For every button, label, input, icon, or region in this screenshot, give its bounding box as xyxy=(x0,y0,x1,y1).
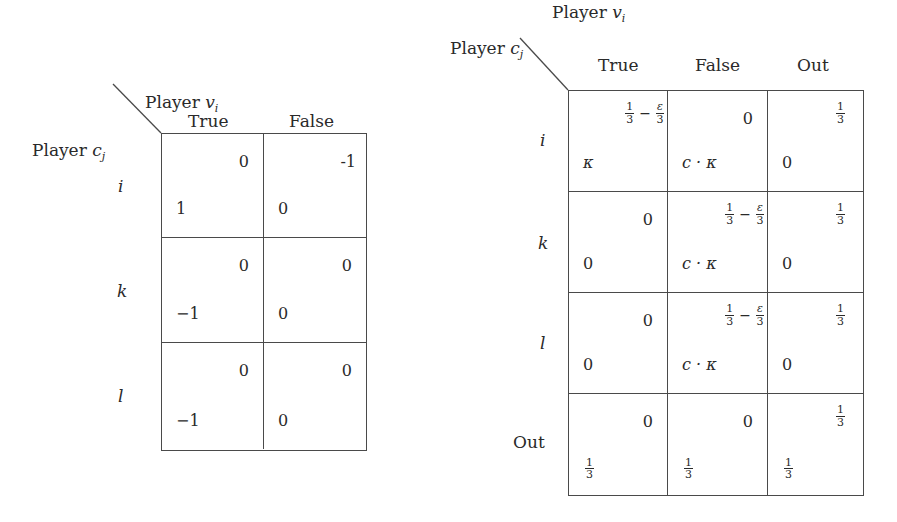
row-player-payoff: 0 xyxy=(782,155,792,171)
column-header-out: Out xyxy=(797,55,829,75)
column-player-payoff: 0 xyxy=(743,111,753,127)
column-player-payoff: 13−ε3 xyxy=(625,101,664,125)
row-player-payoff: 0 xyxy=(278,201,288,217)
row-header-l: l xyxy=(540,333,545,353)
payoff-cell: 13−ε3 c · κ xyxy=(668,192,768,293)
row-player-payoff: κ xyxy=(583,155,594,171)
payoff-cell: 13−ε3 κ xyxy=(569,91,668,192)
column-player-payoff: 0 xyxy=(743,414,753,430)
column-player-payoff: 13 xyxy=(836,202,845,226)
row-player-payoff: 0 xyxy=(583,357,593,373)
column-player-payoff: 0 xyxy=(643,212,653,228)
row-header-l: l xyxy=(118,386,123,406)
column-player-payoff: -1 xyxy=(340,154,356,170)
payoff-cell: 0 1 xyxy=(162,134,264,238)
column-header-false: False xyxy=(289,111,334,131)
row-player-payoff: c · κ xyxy=(682,256,717,272)
column-player-payoff: 13 xyxy=(836,101,845,125)
payoff-cell: 0 0 xyxy=(569,293,668,394)
payoff-cell: 0 −1 xyxy=(162,343,264,449)
payoff-cell: 0 0 xyxy=(569,192,668,293)
payoff-cell: 0 0 xyxy=(264,238,366,343)
payoff-cell: -1 0 xyxy=(264,134,366,238)
row-player-payoff: 0 xyxy=(583,256,593,272)
row-player-payoff: c · κ xyxy=(682,155,717,171)
column-player-payoff: 0 xyxy=(342,258,352,274)
row-player-payoff: c · κ xyxy=(682,357,717,373)
row-header-i: i xyxy=(118,176,123,196)
payoff-cell: 0 13 xyxy=(569,394,668,495)
row-player-payoff: 0 xyxy=(278,306,288,322)
payoff-cell: 13 13 xyxy=(768,394,863,495)
row-player-payoff: 1 xyxy=(176,201,186,217)
column-player-payoff: 13 xyxy=(836,303,845,327)
row-player-label: Player cj xyxy=(450,38,523,61)
row-player-payoff: 0 xyxy=(782,357,792,373)
row-player-payoff: 0 xyxy=(782,256,792,272)
row-player-payoff: 13 xyxy=(784,457,793,481)
row-header-out: Out xyxy=(513,432,545,452)
row-player-payoff: −1 xyxy=(176,413,200,429)
row-header-k: k xyxy=(117,281,127,301)
payoff-grid: 0 1 -1 0 0 −1 0 0 0 −1 0 0 xyxy=(161,133,367,451)
column-player-payoff: 0 xyxy=(342,363,352,379)
column-player-payoff: 13−ε3 xyxy=(725,303,764,327)
column-player-payoff: 0 xyxy=(239,154,249,170)
payoff-cell: 13 0 xyxy=(768,192,863,293)
row-header-i: i xyxy=(540,130,545,150)
column-header-true: True xyxy=(188,111,228,131)
column-player-payoff: 13 xyxy=(836,404,845,428)
row-header-k: k xyxy=(538,233,548,253)
payoff-cell: 13 0 xyxy=(768,91,863,192)
column-header-true: True xyxy=(598,55,638,75)
payoff-cell: 0 0 xyxy=(264,343,366,449)
column-header-false: False xyxy=(695,55,740,75)
column-player-payoff: 13−ε3 xyxy=(725,202,764,226)
payoff-cell: 0 13 xyxy=(668,394,768,495)
row-player-payoff: −1 xyxy=(176,306,200,322)
column-player-payoff: 0 xyxy=(643,313,653,329)
row-player-label: Player cj xyxy=(32,140,105,163)
row-player-payoff: 13 xyxy=(585,457,594,481)
column-player-label: Player vi xyxy=(552,2,625,25)
payoff-grid: 13−ε3 κ 0 c · κ 13 0 0 0 13−ε3 c · κ xyxy=(568,90,864,496)
column-player-payoff: 0 xyxy=(239,363,249,379)
payoff-cell: 13 0 xyxy=(768,293,863,394)
column-player-payoff: 0 xyxy=(643,414,653,430)
column-player-payoff: 0 xyxy=(239,258,249,274)
row-player-payoff: 0 xyxy=(278,413,288,429)
payoff-cell: 13−ε3 c · κ xyxy=(668,293,768,394)
row-player-payoff: 13 xyxy=(684,457,693,481)
payoff-cell: 0 −1 xyxy=(162,238,264,343)
payoff-cell: 0 c · κ xyxy=(668,91,768,192)
